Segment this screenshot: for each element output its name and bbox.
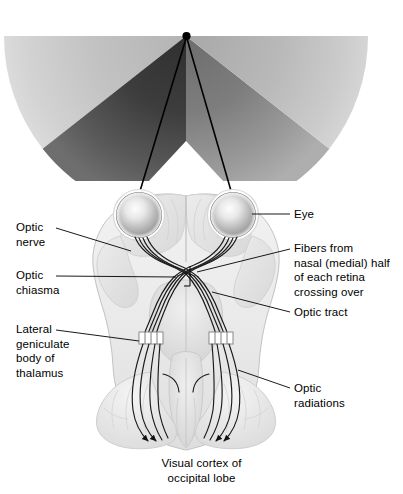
right-eyeball-sheen <box>211 193 256 238</box>
label-eye: Eye <box>294 207 314 222</box>
fixation-point-dot <box>182 32 190 40</box>
label-optic-tract: Optic tract <box>294 305 348 320</box>
label-lateral-geniculate-body: Lateral geniculate body of thalamus <box>16 322 69 380</box>
label-optic-nerve: Optic nerve <box>16 220 45 249</box>
visual-pathway-figure: Optic nerve Optic chiasma Lateral genicu… <box>0 0 403 494</box>
visual-field-final <box>0 0 403 218</box>
left-eyeball-sheen <box>117 193 162 238</box>
label-fibers-crossing-over: Fibers from nasal (medial) half of each … <box>294 241 390 299</box>
label-visual-cortex: Visual cortex of occipital lobe <box>0 456 403 485</box>
label-optic-chiasma: Optic chiasma <box>16 268 60 297</box>
label-optic-radiations: Optic radiations <box>294 381 345 410</box>
